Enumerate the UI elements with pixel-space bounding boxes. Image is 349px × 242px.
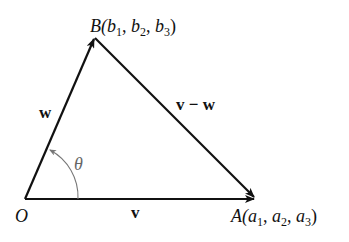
vector-triangle-diagram: B(b1, b2, b3) w v − w θ O v A(a1, a2, a3…	[0, 0, 349, 242]
angle-theta-label: θ	[74, 154, 83, 174]
point-b-label: B(b1, b2, b3)	[90, 16, 176, 39]
vector-v-minus-w-arrow	[95, 38, 254, 197]
point-o-label: O	[15, 206, 28, 226]
vector-v-label: v	[131, 203, 140, 222]
vector-w-label: w	[39, 103, 52, 122]
point-a-label: A(a1, a2, a3)	[230, 206, 317, 229]
vector-w-arrow	[25, 39, 94, 199]
vector-v-minus-w-label: v − w	[176, 95, 216, 114]
